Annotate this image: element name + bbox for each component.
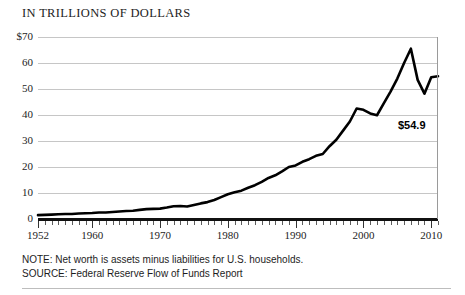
x-axis-major-tick — [38, 221, 39, 228]
x-axis-minor-tick — [377, 221, 378, 225]
x-axis-minor-tick — [106, 221, 107, 225]
x-axis-minor-tick — [316, 221, 317, 225]
x-axis-minor-tick — [45, 221, 46, 225]
y-axis-tick-label: 50 — [0, 82, 33, 94]
x-axis-minor-tick — [404, 221, 405, 225]
x-axis-minor-tick — [221, 221, 222, 225]
x-axis-tick-label: 1990 — [266, 229, 326, 241]
plot-area — [38, 37, 438, 219]
x-axis-minor-tick — [323, 221, 324, 225]
x-axis-minor-tick — [214, 221, 215, 225]
x-axis-minor-tick — [65, 221, 66, 225]
y-axis-tick-label: 60 — [0, 56, 33, 68]
x-axis-tick-label: 1980 — [198, 229, 258, 241]
x-axis-tick-label: 1970 — [130, 229, 190, 241]
y-axis-tick-label: 20 — [0, 160, 33, 172]
x-axis-minor-tick — [241, 221, 242, 225]
x-axis-minor-tick — [153, 221, 154, 225]
x-axis-major-tick — [296, 221, 297, 228]
x-axis-minor-tick — [397, 221, 398, 225]
x-axis-minor-tick — [79, 221, 80, 225]
x-axis-minor-tick — [309, 221, 310, 225]
x-axis-minor-tick — [133, 221, 134, 225]
x-axis-minor-tick — [52, 221, 53, 225]
x-axis-tick-label: 2000 — [333, 229, 393, 241]
x-axis-minor-tick — [248, 221, 249, 225]
y-axis-tick-label: 30 — [0, 134, 33, 146]
x-axis-minor-tick — [438, 221, 439, 225]
x-axis-major-tick — [92, 221, 93, 228]
x-axis-minor-tick — [72, 221, 73, 225]
x-axis-major-tick — [228, 221, 229, 228]
x-axis-minor-tick — [180, 221, 181, 225]
x-axis-major-tick — [363, 221, 364, 228]
x-axis-minor-tick — [126, 221, 127, 225]
x-axis-minor-tick — [174, 221, 175, 225]
x-axis-tick-label: 2010 — [401, 229, 461, 241]
chart-page: IN TRILLIONS OF DOLLARS $706050403020100… — [0, 0, 465, 295]
x-axis-minor-tick — [113, 221, 114, 225]
source-text: SOURCE: Federal Reserve Flow of Funds Re… — [22, 267, 303, 281]
x-axis-minor-tick — [58, 221, 59, 225]
x-axis-tick-label: 1952 — [8, 229, 68, 241]
y-axis-tick-label: 40 — [0, 108, 33, 120]
x-axis-ticks — [38, 221, 438, 228]
x-axis-minor-tick — [235, 221, 236, 225]
x-axis-minor-tick — [140, 221, 141, 225]
x-axis-minor-tick — [357, 221, 358, 225]
x-axis-minor-tick — [269, 221, 270, 225]
x-axis-minor-tick — [255, 221, 256, 225]
x-axis-minor-tick — [370, 221, 371, 225]
y-axis-tick-label: $70 — [0, 30, 33, 42]
x-axis-minor-tick — [289, 221, 290, 225]
x-axis-minor-tick — [194, 221, 195, 225]
x-axis-minor-tick — [275, 221, 276, 225]
x-axis-minor-tick — [86, 221, 87, 225]
x-axis-minor-tick — [201, 221, 202, 225]
x-axis-minor-tick — [302, 221, 303, 225]
page-title: IN TRILLIONS OF DOLLARS — [22, 6, 191, 21]
note-text: NOTE: Net worth is assets minus liabilit… — [22, 253, 303, 267]
x-axis-minor-tick — [119, 221, 120, 225]
x-axis-minor-tick — [187, 221, 188, 225]
x-axis-minor-tick — [384, 221, 385, 225]
x-axis-major-tick — [160, 221, 161, 228]
x-axis-minor-tick — [330, 221, 331, 225]
x-axis-minor-tick — [167, 221, 168, 225]
x-axis-major-tick — [431, 221, 432, 228]
x-axis-minor-tick — [336, 221, 337, 225]
x-axis-minor-tick — [99, 221, 100, 225]
x-axis-minor-tick — [424, 221, 425, 225]
right-axis-line — [437, 37, 438, 219]
y-axis-tick-label: 10 — [0, 186, 33, 198]
x-axis-minor-tick — [343, 221, 344, 225]
series-line-net-worth — [38, 37, 438, 219]
y-axis-tick-label: 0 — [0, 212, 33, 224]
x-axis-minor-tick — [147, 221, 148, 225]
x-axis-minor-tick — [391, 221, 392, 225]
x-axis-minor-tick — [411, 221, 412, 225]
x-axis-minor-tick — [418, 221, 419, 225]
x-axis-minor-tick — [208, 221, 209, 225]
footnotes: NOTE: Net worth is assets minus liabilit… — [22, 253, 303, 281]
x-axis-tick-label: 1960 — [62, 229, 122, 241]
x-axis-minor-tick — [282, 221, 283, 225]
annotation-latest-value: $54.9 — [398, 119, 426, 131]
bottom-divider — [22, 288, 451, 289]
x-axis-minor-tick — [262, 221, 263, 225]
x-axis-minor-tick — [350, 221, 351, 225]
